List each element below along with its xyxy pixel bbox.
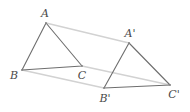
vertex-dot-c bbox=[81, 65, 83, 67]
vertex-dot-b bbox=[21, 69, 23, 71]
vertex-dot-a bbox=[45, 22, 47, 24]
vertex-label-b-prime: B' bbox=[99, 93, 110, 104]
figure-canvas bbox=[0, 0, 190, 112]
triangle-a-prime-b-prime-c-prime bbox=[104, 43, 170, 88]
translation-vector-c-icon bbox=[82, 66, 170, 85]
vertex-dot-a-prime bbox=[128, 42, 130, 44]
translation-vectors-group bbox=[22, 23, 170, 88]
vertex-label-c-prime: C' bbox=[168, 89, 179, 100]
triangle-a-prime-b-prime-c-prime-group bbox=[104, 43, 170, 88]
vertex-dot-b-prime bbox=[103, 87, 105, 89]
vertex-label-a-prime: A' bbox=[125, 28, 136, 39]
vertex-label-c: C bbox=[78, 70, 86, 81]
vertex-label-a: A bbox=[41, 8, 49, 19]
translation-vector-b-icon bbox=[22, 70, 104, 88]
translation-vector-a-icon bbox=[46, 23, 129, 43]
vertex-dot-c-prime bbox=[169, 84, 171, 86]
geometry-diagram: A B C A' B' C' bbox=[0, 0, 190, 112]
vertex-dots-group bbox=[21, 22, 171, 89]
vertex-label-b: B bbox=[10, 70, 18, 81]
